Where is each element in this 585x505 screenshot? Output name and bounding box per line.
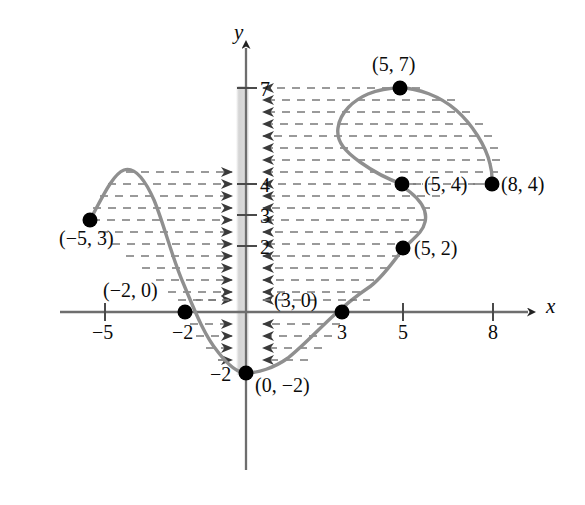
x-tick-label-minus5: −5 — [92, 322, 113, 342]
point-8-4 — [485, 177, 500, 192]
annotation-3-0: (3, 0) — [274, 290, 317, 310]
dashed-arrows-right — [263, 88, 500, 360]
graph-canvas — [0, 0, 585, 505]
annotation-8-4: (8, 4) — [501, 174, 544, 194]
point-5-2 — [396, 241, 411, 256]
annotation-0-minus2: (0, −2) — [255, 375, 310, 395]
annotation-5-2: (5, 2) — [414, 238, 457, 258]
annotation-minus2-0: (−2, 0) — [103, 280, 158, 300]
y-tick-label-3: 3 — [260, 206, 270, 226]
x-tick-label-5: 5 — [398, 322, 408, 342]
point-0-minus2 — [239, 366, 254, 381]
y-tick-label-7: 7 — [260, 79, 270, 99]
y-axis-label: y — [234, 22, 243, 43]
x-tick-label-3: 3 — [337, 322, 347, 342]
y-tick-label-2: 2 — [260, 237, 270, 257]
x-axis-label: x — [546, 296, 555, 317]
annotation-minus5-3: (−5, 3) — [59, 228, 114, 248]
graph-figure: x y −5 −2 3 5 8 7 4 3 2 −2 (−5, 3) (−2, … — [0, 0, 585, 505]
point-5-7 — [393, 81, 408, 96]
y-tick-label-4: 4 — [260, 175, 270, 195]
marked-points — [83, 81, 500, 381]
relation-curve — [90, 88, 492, 373]
x-tick-label-minus2: −2 — [172, 322, 193, 342]
annotation-5-4: (5, 4) — [424, 174, 467, 194]
point-5-4 — [395, 177, 410, 192]
point-minus5-3 — [83, 213, 98, 228]
y-tick-label-minus2: −2 — [210, 364, 231, 384]
x-tick-label-8: 8 — [488, 322, 498, 342]
annotation-5-7: (5, 7) — [372, 54, 415, 74]
point-3-0 — [335, 305, 350, 320]
point-minus2-0 — [178, 305, 193, 320]
